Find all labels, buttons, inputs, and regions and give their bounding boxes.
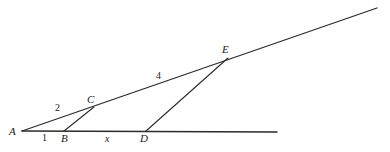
- geometry-diagram: A B C D E 1 2 x 4: [0, 0, 390, 152]
- measure-label-AB: 1: [42, 133, 47, 143]
- point-label-A: A: [9, 126, 16, 137]
- point-label-C: C: [87, 94, 94, 105]
- segment-D-E: [146, 58, 228, 131]
- point-label-D: D: [140, 133, 148, 144]
- measure-label-AC: 2: [55, 103, 60, 113]
- measure-label-CE: 4: [156, 71, 161, 81]
- ray-A-through-C-E: [22, 8, 377, 131]
- point-label-E: E: [222, 44, 229, 55]
- measure-label-BD: x: [105, 134, 109, 144]
- geometry-canvas: [0, 0, 390, 152]
- point-label-B: B: [61, 133, 68, 144]
